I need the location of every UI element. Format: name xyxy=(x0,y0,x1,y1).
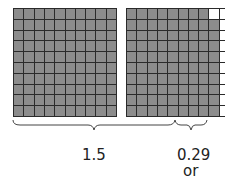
grid-cell xyxy=(148,74,157,84)
grid-cell xyxy=(220,95,225,105)
grid-cell xyxy=(199,74,208,84)
grid-cell xyxy=(220,106,225,116)
grid-cell xyxy=(14,41,23,51)
grid-cell xyxy=(148,31,157,41)
grid-cell xyxy=(148,106,157,116)
grid-cell xyxy=(137,20,146,30)
grid-cell xyxy=(96,31,105,41)
grid-cell xyxy=(76,74,85,84)
grid-cell xyxy=(199,41,208,51)
grid-cell xyxy=(220,9,225,19)
hundred-grid-full xyxy=(13,8,117,117)
grid-cell xyxy=(45,9,54,19)
grid-cell xyxy=(179,41,188,51)
grid-cell xyxy=(220,63,225,73)
grid-cell xyxy=(189,74,198,84)
grid-cell xyxy=(199,52,208,62)
grid-cell xyxy=(199,106,208,116)
grid-cell xyxy=(158,52,167,62)
grid-cell xyxy=(220,74,225,84)
grid-cell xyxy=(148,85,157,95)
grid-cell xyxy=(35,106,44,116)
grid-cell xyxy=(199,95,208,105)
grid-cell xyxy=(66,9,75,19)
grid-cell xyxy=(14,106,23,116)
grid-cell xyxy=(127,41,136,51)
grid-cell xyxy=(24,52,33,62)
grid-cell xyxy=(76,106,85,116)
grid-cell xyxy=(66,95,75,105)
label-1-5: 1.5 xyxy=(82,146,106,164)
grid-cell xyxy=(96,41,105,51)
grid-cell xyxy=(35,85,44,95)
grid-cell xyxy=(209,41,218,51)
grid-cell xyxy=(199,31,208,41)
grid-cell xyxy=(137,95,146,105)
grid-cell xyxy=(168,31,177,41)
brace-lines xyxy=(0,118,225,148)
grid-cell xyxy=(148,9,157,19)
grid-cell xyxy=(96,85,105,95)
grid-cell xyxy=(96,52,105,62)
grid-cell xyxy=(137,74,146,84)
grid-cell xyxy=(55,85,64,95)
grid-cell xyxy=(86,63,95,73)
grid-cell xyxy=(137,63,146,73)
grid-cell xyxy=(107,63,116,73)
grid-cell xyxy=(86,9,95,19)
grid-cell xyxy=(179,31,188,41)
grid-cell xyxy=(209,9,218,19)
grid-cell xyxy=(189,52,198,62)
grid-cell xyxy=(137,9,146,19)
grid-cell xyxy=(45,63,54,73)
grid-cell xyxy=(209,52,218,62)
grid-cell xyxy=(127,85,136,95)
grid-cell xyxy=(137,52,146,62)
grid-cell xyxy=(179,20,188,30)
grid-cell xyxy=(199,20,208,30)
grid-cell xyxy=(45,95,54,105)
grid-cell xyxy=(158,85,167,95)
grid-cell xyxy=(96,95,105,105)
grid-cell xyxy=(137,41,146,51)
grid-cell xyxy=(24,20,33,30)
grid-cell xyxy=(127,106,136,116)
grid-cell xyxy=(14,85,23,95)
grid-cell xyxy=(158,31,167,41)
grid-cell xyxy=(86,20,95,30)
grid-cell xyxy=(137,85,146,95)
grid-cell xyxy=(55,63,64,73)
grid-cell xyxy=(66,20,75,30)
grid-cell xyxy=(199,85,208,95)
grid-cell xyxy=(35,31,44,41)
grid-cell xyxy=(35,74,44,84)
grid-cell xyxy=(220,20,225,30)
grid-cell xyxy=(55,106,64,116)
hundred-grid-partial xyxy=(126,8,225,117)
grid-cell xyxy=(96,74,105,84)
grid-cell xyxy=(127,63,136,73)
grid-cell xyxy=(168,74,177,84)
grid-cell xyxy=(137,106,146,116)
grid-cell xyxy=(158,41,167,51)
grid-cell xyxy=(179,63,188,73)
grid-cell xyxy=(45,52,54,62)
grid-cell xyxy=(86,31,95,41)
grid-cell xyxy=(35,41,44,51)
grid-cell xyxy=(127,74,136,84)
grid-cell xyxy=(107,95,116,105)
grid-cell xyxy=(86,85,95,95)
grid-cell xyxy=(148,20,157,30)
grid-cell xyxy=(24,85,33,95)
grid-cell xyxy=(35,52,44,62)
brace-0-29 xyxy=(175,120,207,130)
grid-cell xyxy=(179,95,188,105)
grid-cell xyxy=(24,9,33,19)
grid-cell xyxy=(14,31,23,41)
grid-cell xyxy=(24,41,33,51)
grid-cell xyxy=(45,85,54,95)
grid-cell xyxy=(127,31,136,41)
grid-cell xyxy=(55,52,64,62)
grid-cell xyxy=(55,20,64,30)
grid-cell xyxy=(189,63,198,73)
